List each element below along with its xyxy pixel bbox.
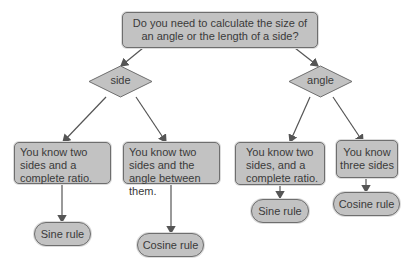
result-angle-cosine-text: Cosine rule [339, 198, 395, 210]
condition-side-sine: You know two sides and a complete ratio. [14, 142, 111, 184]
result-side-cosine-text: Cosine rule [143, 239, 199, 251]
result-side-sine-text: Sine rule [41, 228, 84, 240]
root-question-box: Do you need to calculate the size of an … [122, 12, 318, 48]
condition-angle-cosine-text: You know three sides [337, 146, 397, 172]
result-side-sine: Sine rule [34, 222, 91, 246]
decision-side-label: side [88, 74, 153, 86]
condition-angle-sine: You know two sides, and a complete ratio… [235, 142, 325, 185]
condition-side-cosine: You know two sides and the angle between… [123, 142, 220, 184]
condition-side-sine-text: You know two sides and a complete ratio. [20, 146, 92, 184]
result-angle-sine-text: Sine rule [258, 205, 301, 217]
condition-angle-cosine: You know three sides [336, 140, 398, 178]
root-question-text: Do you need to calculate the size of an … [123, 17, 317, 43]
result-angle-cosine: Cosine rule [333, 192, 400, 216]
condition-angle-sine-text: You know two sides, and a complete ratio… [246, 146, 318, 184]
result-angle-sine: Sine rule [251, 199, 309, 223]
decision-angle-label: angle [288, 74, 353, 86]
result-side-cosine: Cosine rule [137, 233, 204, 257]
